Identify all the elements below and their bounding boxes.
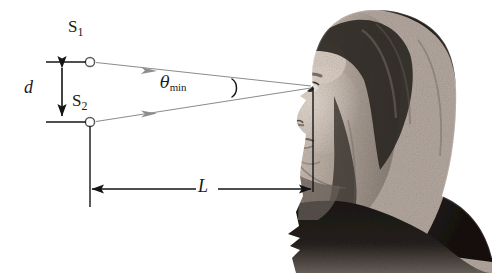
label-distance-L: L: [198, 177, 208, 195]
angle-arc: [232, 79, 237, 97]
label-separation-d: d: [24, 78, 33, 96]
label-source-s2: S2: [72, 92, 87, 112]
ray-from-s2: [96, 88, 311, 122]
light-rays: [96, 63, 311, 122]
label-angle-theta-min: θmin: [160, 75, 187, 93]
label-source-s1: S1: [68, 18, 83, 38]
source-point-s1: [85, 57, 94, 66]
head-photo: [280, 0, 494, 273]
figure-canvas: S1 S2 d θmin L: [0, 0, 494, 273]
ray-from-s1: [96, 63, 311, 87]
source-point-s2: [85, 117, 94, 126]
diagram-svg: [0, 0, 494, 273]
